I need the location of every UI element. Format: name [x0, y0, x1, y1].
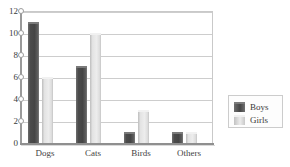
bar-others-girls [186, 132, 197, 143]
bar-cats-girls [90, 33, 101, 143]
y-axis-label-4: 4 [0, 95, 18, 104]
bar-cats-boys [76, 66, 87, 143]
legend-swatch-girls-icon [234, 115, 245, 125]
bar-birds-boys [124, 132, 135, 143]
legend-label-girls: Girls [250, 115, 268, 125]
y-axis-label-6: 6 [0, 73, 18, 82]
y-axis-labels: 12 10 8 6 4 2 0 [0, 0, 18, 167]
y-axis-label-10: 10 [0, 29, 18, 38]
x-axis-shadow [21, 145, 215, 146]
legend-item-boys: Boys [234, 100, 282, 113]
x-axis-label-birds: Birds [119, 148, 163, 159]
chart-legend: Boys Girls [228, 95, 283, 128]
bars-layer [21, 11, 213, 143]
bar-group-others [165, 11, 213, 143]
x-axis-label-others: Others [167, 148, 211, 159]
x-axis-labels: Dogs Cats Birds Others [21, 148, 213, 164]
y-axis-label-0: 0 [0, 139, 18, 148]
bar-others-boys [172, 132, 183, 143]
y-axis-label-2: 2 [0, 117, 18, 126]
y-axis-label-12: 12 [0, 7, 18, 16]
legend-item-girls: Girls [234, 113, 282, 126]
legend-swatch-boys-icon [234, 102, 245, 112]
bar-dogs-boys [28, 22, 39, 143]
bar-birds-girls [138, 110, 149, 143]
bar-dogs-girls [42, 77, 53, 143]
bar-group-birds [117, 11, 165, 143]
bar-group-cats [69, 11, 117, 143]
x-axis-label-dogs: Dogs [23, 148, 67, 159]
bar-chart: 12 10 8 6 4 2 0 Dogs Cats Birds Others B… [0, 0, 290, 167]
bar-group-dogs [21, 11, 69, 143]
y-axis-label-8: 8 [0, 51, 18, 60]
x-axis-label-cats: Cats [71, 148, 115, 159]
legend-label-boys: Boys [250, 102, 269, 112]
